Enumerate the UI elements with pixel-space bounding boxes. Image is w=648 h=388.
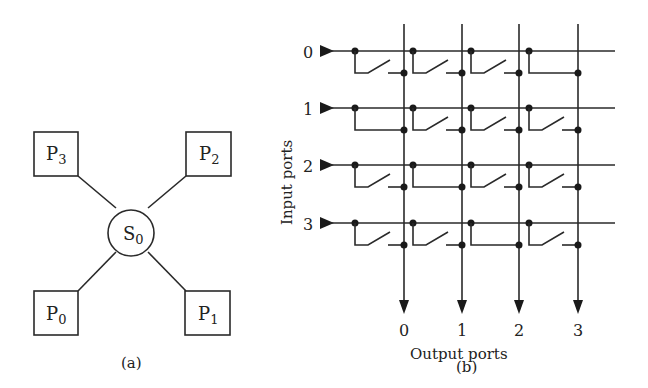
crosspoints-row-3 xyxy=(352,220,582,249)
input-port-label: 0 xyxy=(303,43,313,62)
output-port-label: 0 xyxy=(399,321,409,340)
crossbar-figure: S0 P3 P2 P0 P1 (a) Input ports 0 xyxy=(0,0,648,388)
processor-p1-label: P1 xyxy=(198,303,218,327)
crossbar-switch: Input ports 0 1 2 3 xyxy=(278,24,615,376)
crosspoints-row-2 xyxy=(352,162,582,191)
input-row-0: 0 xyxy=(303,43,615,62)
input-port-label: 3 xyxy=(303,215,313,234)
switch-s0-label: S0 xyxy=(123,223,144,247)
input-row-3: 3 xyxy=(303,215,615,234)
output-port-label: 1 xyxy=(457,321,467,340)
input-row-1: 1 xyxy=(303,100,615,119)
input-ports-axis-label: Input ports xyxy=(278,140,296,225)
crosspoints-row-1 xyxy=(352,105,582,134)
star-topology: S0 P3 P2 P0 P1 (a) xyxy=(34,132,231,372)
input-port-label: 1 xyxy=(303,100,313,119)
processor-p0-label: P0 xyxy=(46,303,66,327)
output-port-label: 3 xyxy=(573,321,583,340)
input-port-label: 2 xyxy=(303,157,313,176)
input-row-2: 2 xyxy=(303,157,615,176)
caption-a: (a) xyxy=(121,354,142,372)
output-lines xyxy=(399,24,583,314)
processor-p3-label: P3 xyxy=(46,143,66,167)
caption-b: (b) xyxy=(456,358,477,376)
processor-p2-label: P2 xyxy=(199,143,219,167)
crosspoints-row-0 xyxy=(352,48,582,77)
output-port-label: 2 xyxy=(514,321,524,340)
